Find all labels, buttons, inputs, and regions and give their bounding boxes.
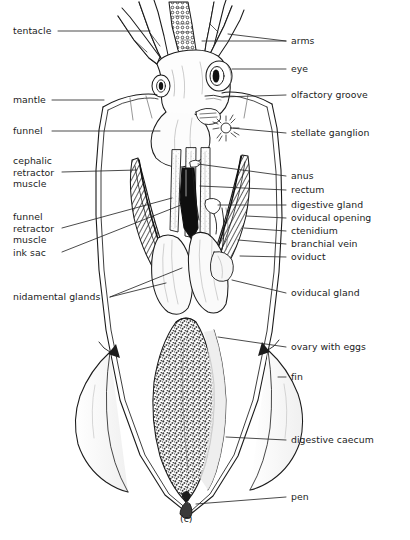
label-arms: arms xyxy=(291,35,314,47)
label-oviducal-opening: oviducal opening xyxy=(291,212,371,224)
label-funnel: funnel xyxy=(13,125,43,137)
label-oviducal-gland: oviducal gland xyxy=(291,287,360,299)
label-funnel-retractor-muscle: funnel retractor muscle xyxy=(13,211,54,246)
squid-anatomy-illustration xyxy=(0,0,410,540)
label-digestive-gland: digestive gland xyxy=(291,199,363,211)
label-cephalic-retractor-muscle-line-2: retractor xyxy=(13,167,54,179)
label-tentacle: tentacle xyxy=(13,25,51,37)
label-eye: eye xyxy=(291,63,308,75)
squid-anatomy-figure: tentacle mantle funnel cephalic retracto… xyxy=(0,0,410,540)
label-tentacle-line-1: tentacle xyxy=(13,25,51,37)
label-oviduct: oviduct xyxy=(291,251,326,263)
label-anus: anus xyxy=(291,170,314,182)
leader-branchial-vein xyxy=(238,240,286,244)
label-ink-sac-line-1: ink sac xyxy=(13,247,46,259)
figure-caption: (c) xyxy=(180,513,192,524)
label-ink-sac: ink sac xyxy=(13,247,46,259)
leader-ovary-with-eggs xyxy=(218,337,286,347)
leader-pen xyxy=(196,497,286,504)
label-mantle: mantle xyxy=(13,94,46,106)
label-nidamental-glands-line-1: nidamental glands xyxy=(13,291,100,303)
label-stellate-ganglion: stellate ganglion xyxy=(291,127,369,139)
label-ovary-with-eggs: ovary with eggs xyxy=(291,341,366,353)
label-pen: pen xyxy=(291,491,309,503)
leader-arms-b xyxy=(228,34,286,41)
label-digestive-caecum: digestive caecum xyxy=(291,434,374,446)
label-branchial-vein: branchial vein xyxy=(291,238,358,250)
label-funnel-retractor-muscle-line-3: muscle xyxy=(13,234,54,246)
label-funnel-retractor-muscle-line-2: retractor xyxy=(13,223,54,235)
label-cephalic-retractor-muscle: cephalic retractor muscle xyxy=(13,155,54,190)
ink-sac-group xyxy=(180,160,201,240)
label-cephalic-retractor-muscle-line-3: muscle xyxy=(13,178,54,190)
label-fin: fin xyxy=(291,371,303,383)
head-group xyxy=(152,50,232,123)
leader-oviducal-opening xyxy=(246,216,286,218)
leader-cephalic-retractor xyxy=(62,170,137,172)
leader-ctenidium xyxy=(244,228,286,231)
label-funnel-retractor-muscle-line-1: funnel xyxy=(13,211,54,223)
label-rectum: rectum xyxy=(291,184,324,196)
label-cephalic-retractor-muscle-line-1: cephalic xyxy=(13,155,54,167)
label-funnel-line-1: funnel xyxy=(13,125,43,137)
label-mantle-line-1: mantle xyxy=(13,94,46,106)
label-nidamental-glands: nidamental glands xyxy=(13,291,100,303)
label-ctenidium: ctenidium xyxy=(291,225,338,237)
leader-oviduct xyxy=(240,256,286,257)
label-olfactory-groove: olfactory groove xyxy=(291,89,368,101)
